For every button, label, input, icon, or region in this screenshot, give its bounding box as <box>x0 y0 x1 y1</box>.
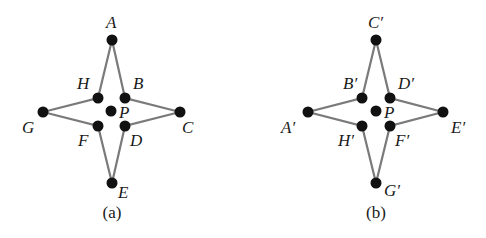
caption-b: (b) <box>366 203 386 222</box>
center-point <box>106 106 117 117</box>
vertex-label: F <box>77 131 89 150</box>
vertex-label: D <box>129 131 143 150</box>
vertex-label: E <box>117 183 129 202</box>
center-label: P <box>383 103 394 122</box>
vertex-label: H′ <box>337 131 354 150</box>
vertex-label: A′ <box>280 118 295 137</box>
vertex-label: B′ <box>343 74 357 93</box>
vertex-point <box>438 107 449 118</box>
vertex-point <box>303 107 314 118</box>
vertex-label: E′ <box>450 118 465 137</box>
vertex-point <box>175 107 186 118</box>
vertex-label: D′ <box>397 74 414 93</box>
vertex-point <box>371 35 382 46</box>
center-point <box>371 106 382 117</box>
vertex-label: G′ <box>384 181 400 200</box>
vertex-point <box>120 121 131 132</box>
vertex-point <box>107 178 118 189</box>
vertex-label: G <box>22 118 34 137</box>
vertex-point <box>385 121 396 132</box>
vertex-point <box>385 93 396 104</box>
vertex-point <box>357 121 368 132</box>
vertex-point <box>357 93 368 104</box>
figure-b-rotated-star-polygon: A′B′C′D′E′F′G′H′P <box>280 13 465 200</box>
vertex-point <box>120 93 131 104</box>
vertex-label: F′ <box>394 131 409 150</box>
vertex-point <box>93 93 104 104</box>
vertex-point <box>38 107 49 118</box>
vertex-label: A <box>105 13 117 32</box>
figure-a-star-polygon: ABCDEFGHP <box>22 13 194 202</box>
vertex-label: C′ <box>368 13 383 32</box>
center-label: P <box>118 103 129 122</box>
vertex-label: H <box>76 74 91 93</box>
caption-a: (a) <box>103 203 122 222</box>
vertex-point <box>371 178 382 189</box>
vertex-label: C <box>182 118 194 137</box>
vertex-label: B <box>133 74 144 93</box>
vertex-point <box>107 35 118 46</box>
vertex-point <box>93 121 104 132</box>
diagram-canvas: ABCDEFGHP A′B′C′D′E′F′G′H′P (a) (b) <box>0 0 486 238</box>
